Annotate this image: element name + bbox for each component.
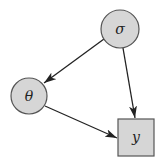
edge-theta-y — [45, 106, 117, 138]
node-sigma-label: σ — [115, 21, 125, 37]
graphical-model: σ θ y — [0, 0, 164, 167]
edge-sigma-y — [123, 48, 135, 118]
node-y: y — [118, 119, 154, 156]
node-theta: θ — [11, 78, 47, 114]
node-sigma: σ — [101, 10, 139, 48]
node-y-label: y — [131, 129, 141, 145]
edge-sigma-theta — [44, 39, 104, 83]
node-theta-label: θ — [25, 88, 34, 104]
